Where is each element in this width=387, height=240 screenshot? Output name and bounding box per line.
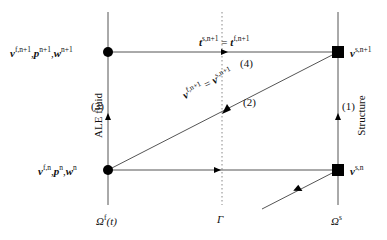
- arrow-right-icon: [221, 49, 228, 55]
- arrow-right-icon: [214, 167, 221, 173]
- fluid-bottom-label: vf,n,pn,wn: [38, 164, 77, 177]
- arrow-up-icon: [105, 113, 111, 120]
- fluid-node-top: [103, 47, 113, 57]
- interface-label: Γ: [217, 214, 223, 225]
- structure-node-bottom: [332, 164, 344, 176]
- arrow-up-icon: [335, 113, 341, 120]
- structure-bottom-label: vs,n: [350, 164, 363, 177]
- step-1-label: (1): [342, 101, 355, 112]
- structure-top-label: vs,n+1: [350, 46, 371, 59]
- arrow-diagonal-icon: [222, 104, 231, 114]
- structure-node-top: [332, 46, 344, 58]
- fluid-top-label: vf,n+1,pn+1,wn+1: [10, 46, 73, 59]
- traction-equality-label: ts,n+1 = tf,n+1: [199, 35, 249, 48]
- ale-fluid-label: ALE fluid: [93, 93, 104, 138]
- step-2-label: (2): [243, 97, 256, 108]
- step-4-label: (4): [240, 58, 253, 69]
- fluid-domain-label: Ωf(t): [96, 214, 117, 227]
- structure-label: Structure: [356, 95, 367, 135]
- fluid-node-bottom: [103, 165, 113, 175]
- solid-domain-label: Ωs: [331, 214, 342, 227]
- diagram-canvas: [0, 0, 387, 240]
